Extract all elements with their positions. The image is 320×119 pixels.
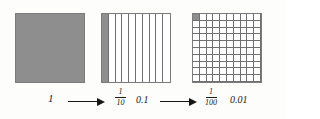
hundredths-cell [200, 62, 207, 69]
arrow-unit-to-tenths-icon [68, 97, 105, 106]
hundredths-cell [227, 21, 234, 28]
tenths-strip [143, 14, 150, 82]
hundredths-cell [241, 75, 248, 82]
hundredths-cell [234, 34, 241, 41]
hundredths-cell [213, 55, 220, 62]
hundredths-cell [247, 14, 254, 21]
hundredths-cell [220, 28, 227, 35]
hundredths-cell [241, 48, 248, 55]
hundredths-cell [234, 55, 241, 62]
tenths-strip-square [101, 13, 171, 83]
hundredths-cell [213, 14, 220, 21]
hundredths-cell [213, 68, 220, 75]
hundredths-cell [247, 55, 254, 62]
hundredths-cell [213, 28, 220, 35]
tenths-strip [122, 14, 129, 82]
hundredths-cell [200, 21, 207, 28]
hundredths-cell [247, 41, 254, 48]
hundredths-cell [247, 34, 254, 41]
hundredths-cell [193, 28, 200, 35]
hundredths-cell [234, 75, 241, 82]
hundredths-cell [234, 68, 241, 75]
hundredths-cell [213, 48, 220, 55]
hundredths-cell [254, 28, 261, 35]
hundredths-cell [193, 68, 200, 75]
hundredths-cell [247, 28, 254, 35]
fraction-denominator: 10 [117, 98, 125, 107]
hundredths-cell [254, 21, 261, 28]
hundredths-cell [227, 55, 234, 62]
hundredths-cell [254, 68, 261, 75]
hundredths-cell [247, 21, 254, 28]
hundredths-cell [241, 21, 248, 28]
hundredths-cell [213, 34, 220, 41]
fraction-numerator: 1 [209, 88, 213, 97]
hundredths-cell [207, 34, 214, 41]
tenths-strip [129, 14, 136, 82]
label-whole-value: 1 [48, 93, 54, 104]
hundredths-cell [220, 14, 227, 21]
tenths-strip [109, 14, 116, 82]
hundredths-cell [220, 21, 227, 28]
hundredths-cell [227, 28, 234, 35]
hundredths-cell [241, 14, 248, 21]
arrow-shaft [68, 101, 98, 103]
hundredths-cell [254, 48, 261, 55]
hundredths-cell [247, 62, 254, 69]
hundredths-cell-shaded [193, 14, 200, 21]
hundredths-cell [254, 41, 261, 48]
hundredths-cell [234, 21, 241, 28]
hundredths-cell [220, 48, 227, 55]
fraction-numerator: 1 [119, 88, 123, 97]
hundredths-cell [247, 48, 254, 55]
hundredths-cell [234, 28, 241, 35]
tenths-strip [136, 14, 143, 82]
hundredths-cell [207, 75, 214, 82]
tenths-strip-shaded [102, 14, 109, 82]
hundredths-cell [213, 41, 220, 48]
hundredths-cell [227, 62, 234, 69]
hundredths-cell [200, 14, 207, 21]
hundredths-cell [220, 41, 227, 48]
hundredths-grid-square [192, 13, 262, 83]
hundredths-cell [234, 41, 241, 48]
hundredths-cell [220, 62, 227, 69]
hundredths-cell [220, 55, 227, 62]
arrow-head [189, 98, 197, 106]
hundredths-cell [241, 28, 248, 35]
hundredths-cell [220, 75, 227, 82]
hundredths-cell [207, 41, 214, 48]
hundredths-cell [254, 55, 261, 62]
hundredths-grid-group [193, 14, 261, 82]
hundredths-cell [213, 21, 220, 28]
hundredths-cell [200, 28, 207, 35]
hundredths-cell [241, 62, 248, 69]
label-hundredth-decimal: 0.01 [230, 95, 248, 105]
hundredths-cell [200, 41, 207, 48]
hundredths-cell [227, 34, 234, 41]
hundredths-cell [254, 34, 261, 41]
hundredths-cell [200, 34, 207, 41]
arrow-head [97, 98, 105, 106]
tenths-strip [116, 14, 123, 82]
hundredths-cell [247, 75, 254, 82]
hundredths-cell [254, 62, 261, 69]
hundredths-cell [200, 68, 207, 75]
hundredths-cell [200, 48, 207, 55]
tenths-strip [156, 14, 163, 82]
hundredths-cell [220, 68, 227, 75]
hundredths-cell [234, 62, 241, 69]
hundredths-cell [207, 14, 214, 21]
hundredths-cell [207, 62, 214, 69]
hundredths-cell [220, 34, 227, 41]
arrow-tenths-to-hundredths-icon [160, 97, 197, 106]
hundredths-cell [200, 55, 207, 62]
hundredths-cell [234, 48, 241, 55]
tenths-strip [163, 14, 170, 82]
hundredths-cell [254, 14, 261, 21]
hundredths-cell [193, 41, 200, 48]
hundredths-cell [241, 68, 248, 75]
hundredths-cell [193, 21, 200, 28]
hundredths-cell [200, 75, 207, 82]
tenths-strip-group [102, 14, 170, 82]
